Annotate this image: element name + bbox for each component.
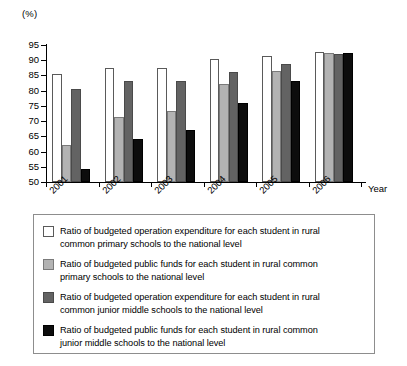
legend-label-line1: Ratio of budgeted public funds for each …: [60, 258, 318, 271]
y-tick-label-60: 60: [5, 147, 39, 157]
bar-op-exp-primary-2002: [105, 68, 115, 182]
y-tick-label-65: 65: [5, 131, 39, 141]
bar-public-funds-primary-2005: [272, 71, 282, 182]
y-tick-label-95: 95: [5, 40, 39, 50]
bar-op-exp-primary-2004: [210, 59, 220, 182]
legend-label-line2: junior middle schools to the national le…: [60, 337, 318, 350]
bar-public-funds-primary-2004: [219, 84, 229, 182]
bar-group-2006: [315, 45, 353, 182]
bar-chart-figure: (%) 50556065707580859095 200120022003200…: [0, 0, 407, 366]
legend-label-line1: Ratio of budgeted public funds for each …: [60, 324, 318, 337]
legend-swatch-public-funds-junior-middle: [43, 325, 54, 336]
bar-group-2004: [210, 45, 248, 182]
bar-op-exp-junior-middle-2006: [334, 54, 344, 182]
x-tick-2004: [204, 182, 205, 187]
bar-op-exp-junior-middle-2004: [229, 72, 239, 182]
legend-label-line2: primary schools to the national level: [60, 271, 318, 284]
y-tick-label-50: 50: [5, 177, 39, 187]
bar-op-exp-primary-2001: [52, 74, 62, 182]
x-tick-2006: [309, 182, 310, 187]
bar-group-2005: [262, 45, 300, 182]
legend-label-line2: common junior middle schools to the nati…: [60, 304, 320, 317]
legend-label-line2: common primary schools to the national l…: [60, 238, 320, 251]
bar-op-exp-primary-2005: [262, 56, 272, 182]
legend-swatch-public-funds-primary: [43, 259, 54, 270]
legend-swatch-op-exp-primary: [43, 226, 54, 237]
chart-legend: Ratio of budgeted operation expenditure …: [33, 214, 375, 354]
x-tick-2002: [99, 182, 100, 187]
legend-label-op-exp-junior-middle: Ratio of budgeted operation expenditure …: [60, 291, 320, 316]
bar-public-funds-primary-2002: [114, 117, 124, 182]
x-tick-end: [361, 182, 362, 187]
y-tick-label-90: 90: [5, 55, 39, 65]
bar-group-2001: [52, 45, 90, 182]
bar-op-exp-primary-2006: [315, 52, 325, 182]
bar-group-2003: [157, 45, 195, 182]
legend-label-public-funds-primary: Ratio of budgeted public funds for each …: [60, 258, 318, 283]
bar-public-funds-junior-middle-2002: [133, 139, 143, 182]
bar-public-funds-primary-2003: [167, 111, 177, 182]
legend-item-op-exp-junior-middle: Ratio of budgeted operation expenditure …: [43, 291, 369, 316]
x-axis-title: Year: [368, 183, 387, 194]
plot-area: [46, 45, 361, 182]
bar-op-exp-junior-middle-2003: [176, 81, 186, 182]
bar-public-funds-primary-2006: [324, 53, 334, 182]
y-tick-label-70: 70: [5, 116, 39, 126]
legend-swatch-op-exp-junior-middle: [43, 292, 54, 303]
y-tick-label-80: 80: [5, 86, 39, 96]
legend-item-public-funds-junior-middle: Ratio of budgeted public funds for each …: [43, 324, 369, 349]
y-tick-label-55: 55: [5, 162, 39, 172]
bar-group-2002: [105, 45, 143, 182]
legend-item-public-funds-primary: Ratio of budgeted public funds for each …: [43, 258, 369, 283]
bar-op-exp-junior-middle-2005: [281, 64, 291, 182]
bar-public-funds-junior-middle-2001: [81, 169, 91, 182]
bar-public-funds-junior-middle-2006: [343, 53, 353, 182]
y-tick-label-85: 85: [5, 70, 39, 80]
legend-label-line1: Ratio of budgeted operation expenditure …: [60, 225, 320, 238]
legend-label-op-exp-primary: Ratio of budgeted operation expenditure …: [60, 225, 320, 250]
bar-op-exp-primary-2003: [157, 68, 167, 182]
y-axis-tick-labels: 50556065707580859095: [0, 0, 39, 200]
bar-public-funds-junior-middle-2004: [238, 103, 248, 182]
legend-label-line1: Ratio of budgeted operation expenditure …: [60, 291, 320, 304]
bar-public-funds-junior-middle-2005: [291, 81, 301, 182]
legend-label-public-funds-junior-middle: Ratio of budgeted public funds for each …: [60, 324, 318, 349]
legend-item-op-exp-primary: Ratio of budgeted operation expenditure …: [43, 225, 369, 250]
y-tick-label-75: 75: [5, 101, 39, 111]
bar-op-exp-junior-middle-2001: [71, 89, 81, 182]
bar-op-exp-junior-middle-2002: [124, 81, 134, 182]
bar-public-funds-junior-middle-2003: [186, 130, 196, 182]
